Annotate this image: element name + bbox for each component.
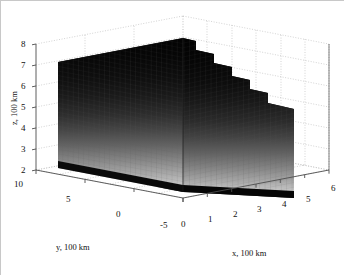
- x-axis-title: x, 100 km: [232, 249, 266, 258]
- y-tick-label-5: 5: [66, 195, 71, 204]
- x-tick-label-3: 3: [257, 205, 262, 214]
- z-tick-label-5: 5: [21, 103, 26, 112]
- z-axis-title: z, 100 km: [10, 91, 19, 125]
- z-tick-label-6: 6: [21, 82, 26, 91]
- x-tick-label-5: 5: [306, 195, 311, 204]
- x-tick-label-6: 6: [331, 184, 336, 193]
- z-tick-label-2: 2: [21, 166, 26, 175]
- z-tick-label-4: 4: [21, 124, 26, 133]
- x-tick-label-2: 2: [233, 210, 238, 219]
- z-tick-label-7: 7: [21, 61, 26, 70]
- x-tick-label-4: 4: [282, 200, 287, 209]
- figure-container: 8 7 6 5 4 3 2 10 5 0 -5 0 1 2 3 4 5 6 z,…: [0, 0, 344, 275]
- y-tick-label-10: 10: [14, 180, 23, 189]
- z-tick-label-3: 3: [21, 145, 26, 154]
- y-axis-title: y, 100 km: [56, 243, 90, 252]
- x-tick-label-0: 0: [181, 220, 186, 229]
- plot-canvas: [0, 0, 344, 275]
- y-tick-label-minus-5: -5: [160, 221, 168, 230]
- y-tick-label-0: 0: [116, 210, 121, 219]
- z-tick-label-8: 8: [21, 40, 26, 49]
- x-tick-label-1: 1: [208, 215, 213, 224]
- surface-block: [50, 30, 303, 204]
- axes-3d: 8 7 6 5 4 3 2 10 5 0 -5 0 1 2 3 4 5 6 z,…: [0, 0, 344, 275]
